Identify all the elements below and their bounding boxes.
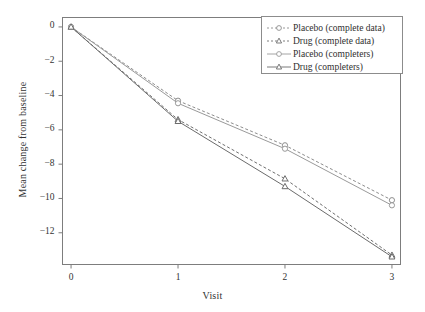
legend-key-drug-completers	[266, 61, 292, 73]
y-tick-label: −12	[25, 226, 55, 236]
legend-label: Placebo (complete data)	[292, 22, 385, 34]
x-axis-ticks	[71, 265, 392, 269]
y-tick-label: −10	[25, 192, 55, 202]
chart-legend: Placebo (complete data) Drug (complete d…	[261, 16, 403, 74]
legend-item: Placebo (complete data)	[266, 21, 398, 34]
data-point-marker	[282, 146, 287, 151]
y-tick-label: −8	[25, 158, 55, 168]
y-tick-label: −4	[25, 89, 55, 99]
y-axis-ticks	[59, 27, 63, 233]
legend-label: Placebo (completers)	[292, 48, 373, 60]
data-point-marker	[389, 203, 394, 208]
x-tick-label: 2	[273, 272, 297, 282]
x-tick-label: 0	[59, 272, 83, 282]
legend-label: Drug (complete data)	[292, 35, 374, 47]
legend-key-drug-complete-data	[266, 35, 292, 47]
y-tick-label: −2	[25, 55, 55, 65]
legend-key-placebo-completers	[266, 48, 292, 60]
legend-label: Drug (completers)	[292, 61, 363, 73]
x-axis-title: Visit	[0, 290, 425, 301]
y-tick-label: 0	[25, 20, 55, 30]
x-tick-label: 1	[166, 272, 190, 282]
data-point-marker	[389, 198, 394, 203]
legend-key-placebo-complete-data	[266, 22, 292, 34]
y-axis-title: Mean change from baseline	[17, 55, 28, 225]
y-tick-label: −6	[25, 123, 55, 133]
legend-item: Placebo (completers)	[266, 47, 398, 60]
legend-item: Drug (complete data)	[266, 34, 398, 47]
x-tick-label: 3	[380, 272, 404, 282]
data-point-marker	[175, 101, 180, 106]
legend-item: Drug (completers)	[266, 60, 398, 73]
chart-figure: 0−2−4−6−8−10−12 0123 Mean change from ba…	[0, 0, 425, 312]
